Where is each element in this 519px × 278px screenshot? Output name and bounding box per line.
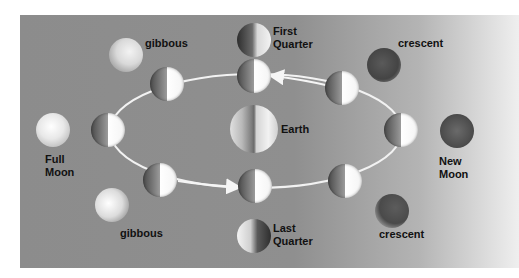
moon-new-icon bbox=[440, 114, 474, 148]
orbit-moon-gibbous-waning bbox=[143, 163, 177, 197]
moon-first-quarter-icon bbox=[237, 23, 271, 57]
label-new-moon: New Moon bbox=[439, 155, 468, 181]
orbit-moon-first-quarter bbox=[237, 59, 271, 93]
moon-last-quarter-icon bbox=[237, 219, 271, 253]
orbit-moon-full bbox=[91, 113, 125, 147]
label-first-quarter: First Quarter bbox=[273, 25, 313, 51]
earth-icon bbox=[230, 105, 278, 153]
orbit-moon-gibbous-waxing bbox=[150, 67, 184, 101]
label-crescent-waning: crescent bbox=[379, 228, 424, 241]
label-gibbous-waning: gibbous bbox=[120, 227, 163, 240]
moon-crescent-waning-icon bbox=[375, 194, 409, 228]
orbit-arrow-bottom bbox=[178, 181, 236, 187]
label-gibbous-waxing: gibbous bbox=[145, 37, 188, 50]
earth-label: Earth bbox=[281, 123, 309, 136]
label-last-quarter: Last Quarter bbox=[273, 222, 313, 248]
label-full-moon: Full Moon bbox=[45, 153, 74, 179]
moon-crescent-waxing-icon bbox=[367, 48, 401, 82]
moon-full-icon bbox=[36, 113, 70, 147]
moon-gibbous-waning-icon bbox=[95, 188, 129, 222]
moon-gibbous-waxing-icon bbox=[109, 38, 143, 72]
orbit-moon-crescent-waning bbox=[328, 164, 362, 198]
label-crescent-waxing: crescent bbox=[398, 37, 443, 50]
orbit-moon-crescent-waxing bbox=[325, 71, 359, 105]
orbit-moon-last-quarter bbox=[238, 169, 272, 203]
orbit-moon-new bbox=[384, 113, 418, 147]
